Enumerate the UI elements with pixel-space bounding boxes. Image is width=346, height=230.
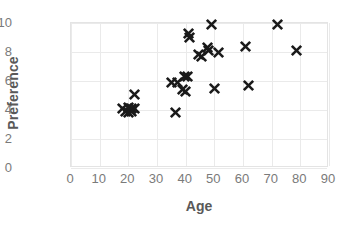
- data-point-marker: [182, 27, 195, 40]
- x-axis-tick-label: 80: [284, 171, 314, 186]
- gridline-horizontal: [71, 168, 327, 169]
- data-point-marker: [239, 40, 252, 53]
- gridline-vertical: [329, 23, 330, 166]
- gridline-horizontal: [71, 52, 327, 53]
- x-axis-tick-label: 20: [112, 171, 142, 186]
- gridline-vertical: [186, 23, 187, 166]
- gridline-vertical: [272, 23, 273, 166]
- gridline-horizontal: [71, 23, 327, 24]
- data-point-marker: [171, 76, 184, 89]
- y-axis-tick-label: 10: [0, 15, 12, 30]
- data-point-marker: [125, 105, 138, 118]
- x-axis-title: Age: [70, 198, 328, 214]
- data-point-marker: [116, 102, 129, 115]
- gridline-vertical: [128, 23, 129, 166]
- x-axis-tick-label: 40: [170, 171, 200, 186]
- data-point-marker: [271, 18, 284, 31]
- y-axis-tick-label: 2: [0, 131, 12, 146]
- data-point-marker: [192, 48, 205, 61]
- x-axis-tick-label: 30: [141, 171, 171, 186]
- y-axis-title-label: Preference: [5, 56, 21, 129]
- gridline-vertical: [157, 23, 158, 166]
- y-axis-tick-label: 4: [0, 102, 12, 117]
- scatter-chart: Preference 0246810 0102030405060708090 A…: [0, 0, 346, 230]
- gridline-vertical: [300, 23, 301, 166]
- x-axis-tick-label: 50: [198, 171, 228, 186]
- data-point-marker: [165, 76, 178, 89]
- x-axis-title-label: Age: [186, 198, 212, 214]
- data-point-marker: [128, 88, 141, 101]
- data-point-marker: [202, 44, 215, 57]
- x-axis-tick-label: 90: [313, 171, 343, 186]
- data-point-marker: [125, 102, 138, 115]
- gridline-vertical: [71, 23, 72, 166]
- gridline-vertical: [100, 23, 101, 166]
- x-axis-tick-label: 0: [55, 171, 85, 186]
- gridline-horizontal: [71, 110, 327, 111]
- data-point-marker: [169, 106, 182, 119]
- x-axis-tick-label: 60: [227, 171, 257, 186]
- data-point-marker: [176, 83, 189, 96]
- gridline-horizontal: [71, 139, 327, 140]
- y-axis-tick-label: 6: [0, 73, 12, 88]
- data-point-marker: [119, 105, 132, 118]
- x-axis-tick-label: 10: [84, 171, 114, 186]
- data-point-marker: [128, 102, 141, 115]
- data-point-marker: [205, 18, 218, 31]
- x-axis-tick-label: 70: [256, 171, 286, 186]
- y-axis-tick-label: 8: [0, 44, 12, 59]
- gridline-horizontal: [71, 81, 327, 82]
- plot-area: [70, 22, 328, 167]
- gridline-vertical: [243, 23, 244, 166]
- gridline-vertical: [214, 23, 215, 166]
- y-axis-tick-label: 0: [0, 160, 12, 175]
